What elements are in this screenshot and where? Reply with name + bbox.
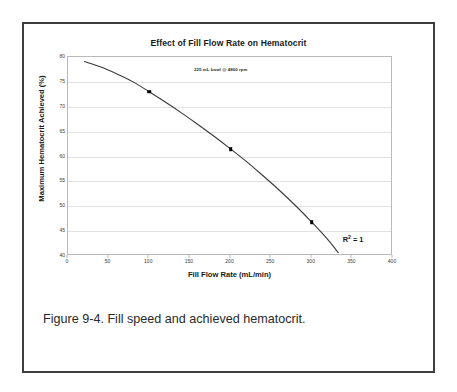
x-tick-label: 100 bbox=[144, 258, 152, 264]
y-tick-label: 80 bbox=[49, 53, 65, 59]
y-tick-label: 45 bbox=[49, 227, 65, 233]
figure-page: Effect of Fill Flow Rate on Hematocrit M… bbox=[0, 0, 457, 392]
data-curve bbox=[68, 57, 391, 254]
y-tick-label: 50 bbox=[49, 202, 65, 208]
figure-border-box: Effect of Fill Flow Rate on Hematocrit M… bbox=[22, 22, 435, 373]
x-tick-label: 350 bbox=[347, 258, 355, 264]
data-point-marker bbox=[229, 147, 233, 151]
y-axis-label: Maximum Hematocrit Achieved (%) bbox=[37, 59, 46, 219]
x-tick-label: 200 bbox=[225, 258, 233, 264]
y-tick-label: 60 bbox=[49, 153, 65, 159]
x-tick-label: 400 bbox=[388, 258, 396, 264]
y-tick-label: 65 bbox=[49, 128, 65, 134]
x-axis-tick-labels: 050100150200250300350400 bbox=[67, 258, 392, 268]
chart-title: Effect of Fill Flow Rate on Hematocrit bbox=[24, 38, 433, 48]
r2-value: = 1 bbox=[351, 235, 364, 244]
x-axis-label: Fill Flow Rate (mL/min) bbox=[67, 270, 392, 279]
x-tick-label: 150 bbox=[185, 258, 193, 264]
chart-container: Effect of Fill Flow Rate on Hematocrit M… bbox=[24, 24, 433, 292]
chart-annotation-note: 225 mL bowl @ 4800 rpm bbox=[194, 67, 247, 72]
plot-frame: 225 mL bowl @ 4800 rpm R2 = 1 bbox=[67, 56, 392, 255]
r-squared-annotation: R2 = 1 bbox=[343, 234, 364, 244]
x-tick-label: 0 bbox=[66, 258, 69, 264]
data-point-marker bbox=[147, 90, 151, 94]
y-tick-label: 70 bbox=[49, 103, 65, 109]
y-axis-tick-labels: 404550556065707580 bbox=[46, 56, 65, 255]
x-tick-label: 50 bbox=[105, 258, 111, 264]
x-tick-label: 250 bbox=[266, 258, 274, 264]
y-tick-label: 40 bbox=[49, 252, 65, 258]
x-tick-label: 300 bbox=[307, 258, 315, 264]
figure-caption: Figure 9-4. Fill speed and achieved hema… bbox=[43, 312, 306, 326]
data-point-marker bbox=[310, 220, 314, 224]
y-tick-label: 55 bbox=[49, 177, 65, 183]
y-tick-label: 75 bbox=[49, 78, 65, 84]
